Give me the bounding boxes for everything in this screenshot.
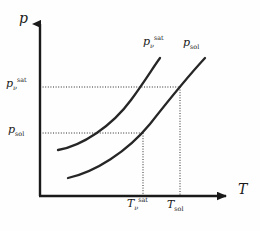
ytick-label-p-nu-sat: pνsat [6,78,27,89]
curve-label-p-nu-sat: pνsat [143,36,164,47]
xtick-label-T-sol: Tsol [167,199,184,210]
guide-lines [40,87,180,196]
ytick-label-p-sol: psol [8,124,24,135]
xtick-Tsat-sup: sat [138,196,148,204]
xtick-Tsol-sub: sol [174,205,183,213]
curves [58,58,205,178]
curve-p-sol [68,58,205,178]
curve-psat-base: p [143,35,150,48]
axis-label-T: T [238,182,247,196]
curve-p-nu-sat [58,58,160,150]
ytick-psat-sub: ν [13,84,17,92]
thermodynamics-pT-diagram: p T pνsat psol Tνsat Tsol pνsat psol [0,0,260,231]
ytick-psol-base: p [8,123,15,136]
xtick-label-T-nu-sat: Tνsat [127,198,148,209]
curve-psol-base: p [183,36,190,49]
ytick-psol-sub: sol [15,130,24,138]
curve-psat-sub: ν [150,42,154,50]
xtick-Tsat-sub: ν [134,204,138,212]
ytick-psat-sup: sat [17,76,27,84]
axis-label-p: p [19,11,28,25]
curve-label-p-sol: psol [183,37,199,48]
curve-psol-sub: sol [190,43,199,51]
ytick-psat-base: p [6,77,13,90]
curve-psat-sup: sat [154,34,164,42]
